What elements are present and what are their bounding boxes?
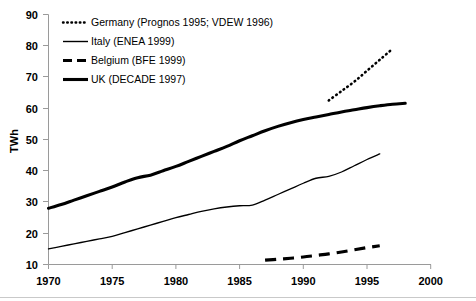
x-tick-label-1985: 1985 <box>227 275 251 287</box>
y-tick-label-30: 30 <box>26 196 38 208</box>
y-tick-label-70: 70 <box>26 71 38 83</box>
series-line-belgium <box>265 246 380 260</box>
line-chart: 90 80 70 60 50 40 30 20 10 1970 1975 198… <box>0 0 476 301</box>
y-tick-label-10: 10 <box>26 259 38 271</box>
y-tick-label-50: 50 <box>26 134 38 146</box>
y-tick-label-40: 40 <box>26 165 38 177</box>
x-tick-label-1980: 1980 <box>164 275 188 287</box>
x-tick-label-1995: 1995 <box>355 275 379 287</box>
x-tick-label-1990: 1990 <box>291 275 315 287</box>
y-tick-label-90: 90 <box>26 9 38 21</box>
y-axis-tick-labels: 90 80 70 60 50 40 30 20 10 <box>26 9 38 271</box>
legend-label-belgium: Belgium (BFE 1999) <box>91 54 186 66</box>
x-axis-tick-labels: 1970 1975 1980 1985 1990 1995 2000 <box>36 275 443 287</box>
legend: Germany (Prognos 1995; VDEW 1996) Italy … <box>63 16 273 85</box>
chart-container: 90 80 70 60 50 40 30 20 10 1970 1975 198… <box>0 0 476 301</box>
legend-label-uk: UK (DECADE 1997) <box>91 73 186 85</box>
series-line-germany <box>329 49 393 101</box>
y-tick-label-60: 60 <box>26 103 38 115</box>
x-tick-label-1975: 1975 <box>100 275 124 287</box>
x-axis-ticks <box>49 265 431 270</box>
series-line-uk <box>49 103 406 208</box>
x-tick-label-1970: 1970 <box>36 275 60 287</box>
y-tick-label-80: 80 <box>26 40 38 52</box>
y-axis-ticks <box>43 15 49 265</box>
series-line-italy <box>49 154 380 249</box>
y-axis-title: TWh <box>8 129 20 153</box>
y-tick-label-20: 20 <box>26 228 38 240</box>
legend-label-italy: Italy (ENEA 1999) <box>91 35 174 47</box>
legend-label-germany: Germany (Prognos 1995; VDEW 1996) <box>91 16 273 28</box>
x-tick-label-2000: 2000 <box>418 275 442 287</box>
